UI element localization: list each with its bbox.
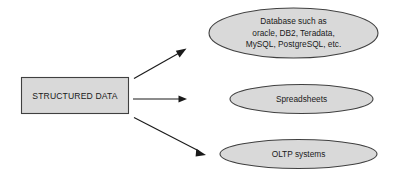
arrow-down-right-icon <box>134 118 206 157</box>
node-database-label-line-2: oracle, DB2, Teradata, <box>252 28 334 38</box>
node-database-label-line-3: MySQL, PostgreSQL, etc. <box>246 39 341 49</box>
node-oltp-systems-label: OLTP systems <box>272 149 326 159</box>
node-spreadsheets[interactable]: Spreadsheets <box>230 85 373 114</box>
arrow-head <box>196 149 206 157</box>
diagram-canvas: STRUCTURED DATA Database such as oracle,… <box>0 0 400 180</box>
arrow-head <box>179 95 188 102</box>
node-database-label-line-1: Database such as <box>260 16 326 26</box>
node-database-label: Database such as <box>260 16 326 26</box>
arrow-up-right-icon <box>134 49 187 79</box>
arrow-head <box>176 49 187 58</box>
node-database-label-row3: MySQL, PostgreSQL, etc. <box>246 39 341 49</box>
node-spreadsheets-label: Spreadsheets <box>276 94 327 104</box>
node-structured-data[interactable]: STRUCTURED DATA <box>22 78 129 114</box>
arrow-shaft <box>134 118 199 152</box>
node-oltp-systems[interactable]: OLTP systems <box>220 140 377 169</box>
arrow-shaft <box>134 53 180 79</box>
node-structured-data-label: STRUCTURED DATA <box>32 91 118 101</box>
diagram-surface: STRUCTURED DATA Database such as oracle,… <box>0 0 400 180</box>
arrow-right-icon <box>133 95 187 102</box>
node-database-label-row2: oracle, DB2, Teradata, <box>252 28 334 38</box>
node-database[interactable]: Database such as oracle, DB2, Teradata, … <box>209 8 378 58</box>
